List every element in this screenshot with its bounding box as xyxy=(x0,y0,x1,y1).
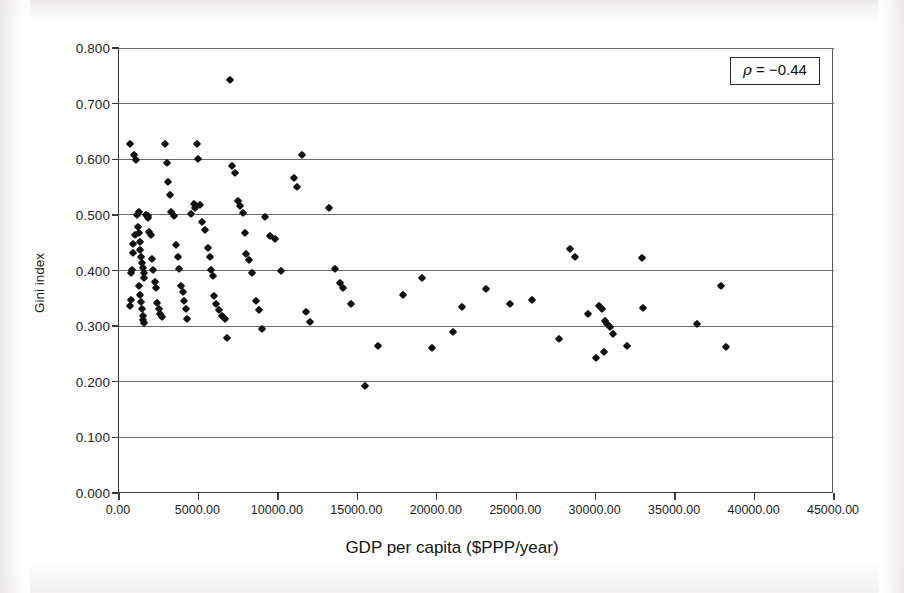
data-point xyxy=(149,266,158,275)
data-point xyxy=(126,139,135,148)
data-point xyxy=(428,343,437,352)
data-point xyxy=(239,209,248,218)
y-axis-tick-label: 0.500 xyxy=(76,207,110,222)
data-point xyxy=(205,252,214,261)
rho-symbol: ρ xyxy=(743,61,752,79)
data-point xyxy=(289,174,298,183)
data-point xyxy=(221,315,230,324)
y-axis-tick-label: 0.100 xyxy=(76,430,110,445)
data-point xyxy=(254,306,263,315)
x-axis-tick-label: 25000.00 xyxy=(489,503,541,517)
data-point xyxy=(231,169,240,178)
plot-area xyxy=(118,48,833,493)
x-axis-tick-label: 40000.00 xyxy=(727,503,779,517)
y-axis-tick-label: 0.800 xyxy=(76,41,110,56)
data-point xyxy=(161,140,170,149)
data-point xyxy=(623,341,632,350)
data-point xyxy=(134,282,143,291)
data-point xyxy=(164,177,173,186)
data-point xyxy=(374,342,383,351)
gridline xyxy=(119,159,834,160)
gridline xyxy=(119,270,834,271)
x-axis-tick xyxy=(754,493,755,500)
data-point xyxy=(482,285,491,294)
data-point xyxy=(210,292,219,301)
data-point xyxy=(347,299,356,308)
data-point xyxy=(204,243,213,252)
data-point xyxy=(158,313,167,322)
scatter-plot-figure: 0.0000.1000.2000.3000.4000.5000.6000.700… xyxy=(0,0,904,593)
data-point xyxy=(140,274,149,283)
data-point xyxy=(180,297,189,306)
data-point xyxy=(136,237,145,246)
y-axis-tick-label: 0.000 xyxy=(76,486,110,501)
gridline xyxy=(119,48,834,49)
data-point xyxy=(169,212,178,221)
data-point xyxy=(361,382,370,391)
x-axis-tick xyxy=(674,493,675,500)
data-point xyxy=(245,256,254,265)
y-axis-tick xyxy=(112,47,119,48)
data-point xyxy=(302,308,311,317)
y-axis-tick xyxy=(112,325,119,326)
x-axis-tick xyxy=(357,493,358,500)
data-point xyxy=(270,235,279,244)
y-axis-tick xyxy=(112,437,119,438)
data-point xyxy=(251,297,260,306)
y-axis-tick-label: 0.200 xyxy=(76,374,110,389)
x-axis-tick-label: 35000.00 xyxy=(648,503,700,517)
data-point xyxy=(200,226,209,235)
y-axis-tick xyxy=(112,214,119,215)
data-point xyxy=(293,182,302,191)
data-point xyxy=(339,284,348,293)
data-point xyxy=(277,267,286,276)
x-axis-tick-label: 30000.00 xyxy=(569,503,621,517)
data-point xyxy=(223,333,232,342)
y-axis-tick-label: 0.300 xyxy=(76,319,110,334)
data-point xyxy=(208,272,217,281)
gridline xyxy=(119,381,834,382)
gridline xyxy=(119,326,834,327)
y-axis-tick-label: 0.600 xyxy=(76,152,110,167)
data-point xyxy=(172,241,181,250)
y-axis-tick xyxy=(112,103,119,104)
x-axis-tick-label: 5000.00 xyxy=(175,503,220,517)
data-point xyxy=(399,291,408,300)
data-point xyxy=(324,204,333,213)
data-point xyxy=(126,301,135,310)
data-point xyxy=(192,139,201,148)
data-point xyxy=(148,255,157,264)
data-point xyxy=(175,265,184,274)
y-axis-title: Gini index xyxy=(32,61,54,506)
data-point xyxy=(555,335,564,344)
x-axis-tick xyxy=(595,493,596,500)
y-axis-tick-label: 0.700 xyxy=(76,96,110,111)
data-point xyxy=(717,282,726,291)
y-axis-tick-labels: 0.0000.1000.2000.3000.4000.5000.6000.700… xyxy=(46,48,110,493)
data-point xyxy=(571,253,580,262)
data-point xyxy=(722,342,731,351)
data-point xyxy=(458,302,467,311)
y-axis-tick xyxy=(112,270,119,271)
x-axis-tick-label: 10000.00 xyxy=(251,503,303,517)
data-point xyxy=(132,156,141,165)
data-point xyxy=(528,296,537,305)
data-point xyxy=(173,253,182,262)
data-point xyxy=(598,304,607,313)
correlation-annotation-box: ρ = −0.44 xyxy=(730,57,820,85)
data-point xyxy=(418,273,427,282)
data-point xyxy=(194,154,203,163)
gridline xyxy=(119,437,834,438)
x-axis-tick xyxy=(516,493,517,500)
x-axis-tick xyxy=(436,493,437,500)
data-point xyxy=(165,190,174,199)
gridline xyxy=(119,103,834,104)
y-axis-tick xyxy=(112,381,119,382)
x-axis-title: GDP per capita ($PPP/year) xyxy=(0,538,904,558)
y-axis-tick-label: 0.400 xyxy=(76,263,110,278)
x-axis-tick-label: 15000.00 xyxy=(330,503,382,517)
data-point xyxy=(505,299,514,308)
data-point xyxy=(591,353,600,362)
x-axis-tick xyxy=(198,493,199,500)
data-point xyxy=(183,315,192,324)
